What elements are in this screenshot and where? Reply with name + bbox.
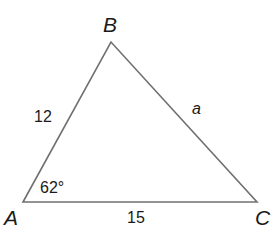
side-label-bc: a (192, 101, 201, 117)
vertex-label-a: A (4, 207, 18, 228)
side-label-ac: 15 (127, 210, 145, 226)
angle-label-a: 62° (40, 180, 64, 196)
side-label-ab: 12 (34, 109, 52, 125)
triangle-diagram: A B C 12 a 15 62° (0, 0, 272, 230)
vertex-label-c: C (255, 207, 270, 228)
vertex-label-b: B (103, 14, 117, 35)
